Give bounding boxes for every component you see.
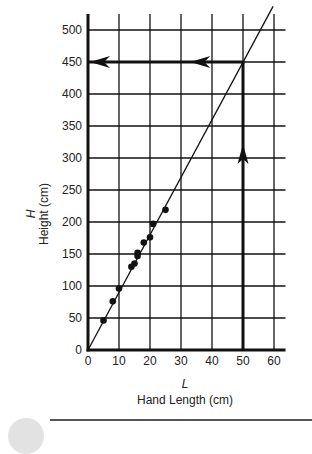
y-tick-label: 0	[75, 343, 82, 357]
x-tick-label: 60	[267, 354, 281, 368]
x-tick-label: 10	[112, 354, 126, 368]
y-tick-label: 400	[62, 87, 82, 101]
data-point	[162, 207, 169, 214]
data-point	[141, 239, 148, 246]
x-tick-label: 20	[143, 354, 157, 368]
divider-rule	[50, 419, 312, 421]
y-tick-labels: 050100150200250300350400450500	[62, 23, 82, 357]
data-point	[100, 317, 107, 324]
y-tick-label: 350	[62, 119, 82, 133]
y-tick-label: 200	[62, 215, 82, 229]
y-tick-label: 100	[62, 279, 82, 293]
y-axis-title: Height (cm)	[37, 183, 51, 245]
data-point	[116, 285, 123, 292]
y-tick-label: 250	[62, 183, 82, 197]
y-tick-label: 450	[62, 55, 82, 69]
x-tick-label: 40	[205, 354, 219, 368]
data-point	[131, 260, 138, 267]
grid-lines	[88, 14, 286, 350]
data-point	[110, 298, 117, 305]
data-point	[147, 234, 154, 241]
data-point	[150, 221, 157, 228]
y-tick-label: 500	[62, 23, 82, 37]
axes	[87, 14, 286, 352]
data-points	[100, 207, 169, 324]
x-tick-labels: 0102030405060	[85, 354, 281, 368]
x-tick-label: 0	[85, 354, 92, 368]
y-tick-label: 50	[69, 311, 83, 325]
data-point	[134, 249, 141, 256]
y-tick-label: 300	[62, 151, 82, 165]
x-tick-label: 30	[174, 354, 188, 368]
x-tick-label: 50	[236, 354, 250, 368]
y-tick-label: 150	[62, 247, 82, 261]
decorative-circle	[8, 418, 44, 454]
x-axis-variable: L	[182, 377, 189, 391]
x-axis-title: Hand Length (cm)	[137, 393, 233, 407]
y-axis-variable: H	[24, 209, 38, 218]
